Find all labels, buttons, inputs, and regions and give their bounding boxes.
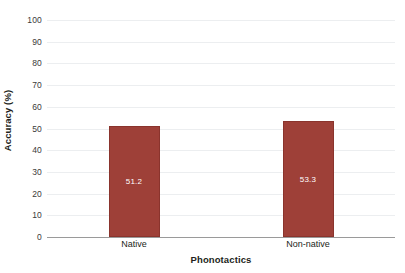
x-axis-tick-label: Native xyxy=(121,239,147,249)
y-axis-tick-label: 100 xyxy=(12,15,42,25)
bar-value-label: 51.2 xyxy=(110,177,159,186)
gridline xyxy=(47,172,395,173)
gridline xyxy=(47,63,395,64)
bar-value-label: 53.3 xyxy=(284,175,333,184)
y-axis-tick-label: 40 xyxy=(12,145,42,155)
y-axis-tick-label: 20 xyxy=(12,189,42,199)
y-axis-tick-label: 30 xyxy=(12,167,42,177)
gridline xyxy=(47,150,395,151)
y-axis-tick-label: 90 xyxy=(12,37,42,47)
x-axis-title: Phonotactics xyxy=(47,254,395,265)
bar[interactable]: 51.2 xyxy=(109,126,160,237)
y-axis-tick-label: 10 xyxy=(12,210,42,220)
y-axis-tick-label: 50 xyxy=(12,124,42,134)
gridline xyxy=(47,194,395,195)
gridline xyxy=(47,42,395,43)
gridline xyxy=(47,20,395,21)
gridline xyxy=(47,85,395,86)
bar-chart: Accuracy (%) 0102030405060708090100 51.2… xyxy=(0,0,405,273)
gridline xyxy=(47,215,395,216)
x-axis-tick-label: Non-native xyxy=(286,239,330,249)
plot-area: 51.253.3 xyxy=(47,20,395,237)
y-axis-tick-label: 60 xyxy=(12,102,42,112)
y-axis-tick-label: 70 xyxy=(12,80,42,90)
bar[interactable]: 53.3 xyxy=(283,121,334,237)
y-axis-tick-labels: 0102030405060708090100 xyxy=(8,20,42,237)
y-axis-tick-label: 0 xyxy=(12,232,42,242)
axis-baseline xyxy=(47,237,395,238)
gridline xyxy=(47,107,395,108)
y-axis-tick-label: 80 xyxy=(12,58,42,68)
gridline xyxy=(47,129,395,130)
x-axis-tick-labels: NativeNon-native xyxy=(47,239,395,255)
